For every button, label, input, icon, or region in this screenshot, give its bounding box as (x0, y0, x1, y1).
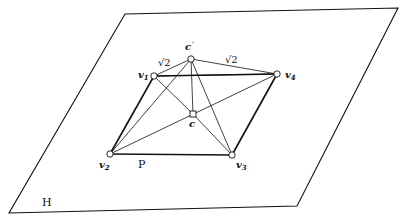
edge-c_prime-v3 (191, 59, 232, 155)
vertex-v2 (107, 151, 113, 157)
label-c-prime: c′ (185, 40, 194, 52)
label-c: c (189, 118, 195, 129)
plane-label: H (42, 196, 52, 209)
label-v1: v1 (138, 69, 149, 82)
edge-v1-v2 (110, 76, 154, 154)
vertex-c_prime (188, 56, 194, 62)
label-v2: v2 (99, 159, 110, 172)
edge-v2-v3 (110, 154, 232, 155)
thin-edges (110, 59, 277, 155)
edge-label-sqrt2-right: √2 (225, 54, 238, 65)
polygon-label: P (138, 158, 146, 171)
vertex-c (190, 111, 196, 117)
edge-c_prime-v2 (110, 59, 191, 154)
label-v3: v3 (236, 159, 247, 172)
vertex-v4 (274, 71, 280, 77)
edge-v3-v4 (232, 74, 277, 155)
edge-v1-v4 (154, 74, 277, 76)
plane-h (9, 8, 398, 213)
edge-c_prime-c (191, 59, 193, 114)
edge-c-v3 (193, 114, 232, 155)
edge-label-sqrt2-left: √2 (158, 57, 171, 68)
diagram: H P c′ v1 v4 c v2 v3 √2 √2 (0, 0, 403, 219)
label-v4: v4 (285, 69, 296, 82)
vertex-v3 (229, 152, 235, 158)
vertex-v1 (151, 73, 157, 79)
